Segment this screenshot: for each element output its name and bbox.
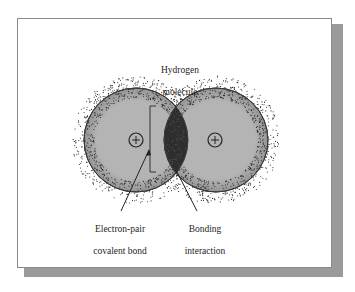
hydrogen-molecule-title: Hydrogen molecule [140, 54, 220, 109]
bonding-line-2: interaction [165, 246, 245, 257]
bonding-interaction-label: Bonding interaction [165, 213, 245, 268]
title-line-2: molecule [140, 87, 220, 98]
electron-pair-line-1: Electron-pair [75, 224, 165, 235]
electron-pair-label: Electron-pair covalent bond [75, 213, 165, 268]
bonding-line-1: Bonding [165, 224, 245, 235]
title-line-1: Hydrogen [140, 65, 220, 76]
electron-pair-line-2: covalent bond [75, 246, 165, 257]
